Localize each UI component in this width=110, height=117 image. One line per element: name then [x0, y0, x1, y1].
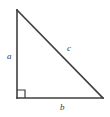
side-label-c: c	[67, 44, 71, 53]
side-label-a: a	[7, 52, 12, 61]
triangle-shape	[0, 0, 110, 117]
hypotenuse-c-line	[17, 10, 103, 98]
right-triangle-figure: a b c	[0, 0, 110, 117]
right-angle-marker	[17, 90, 25, 98]
side-label-b: b	[60, 103, 65, 112]
